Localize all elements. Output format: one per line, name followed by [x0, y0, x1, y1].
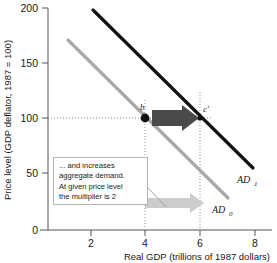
multiplier-callout: ... and increases aggregate demand. At g…: [53, 157, 148, 205]
y-tick-label-100: 100: [20, 112, 38, 124]
y-tick-label-0: 0: [32, 224, 38, 236]
callout-line-1: ... and increases: [59, 161, 143, 171]
x-axis-title: Real GDP (trillions of 1987 dollars): [124, 251, 270, 262]
curve-label-ad0: AD: [211, 204, 226, 215]
y-tick-label-150: 150: [20, 57, 38, 69]
curve-label-ad1-group: AD 1: [236, 174, 258, 188]
x-tick-label-8: 8: [252, 237, 258, 249]
point-c-prime: [197, 115, 202, 120]
point-b-label: b: [140, 102, 145, 112]
callout-line-4: the multiplier is 2: [59, 192, 143, 202]
curve-label-ad1: AD: [236, 174, 251, 185]
point-b: [141, 114, 150, 123]
x-tick-label-6: 6: [197, 237, 203, 249]
x-tick-label-4: 4: [142, 237, 148, 249]
multiplier-arrow-light: [145, 193, 204, 213]
point-c-prime-label: c′: [203, 104, 210, 114]
callout-line-3: At given price level: [59, 182, 143, 192]
y-tick-label-50: 50: [26, 167, 38, 179]
ad-shift-figure: 200 150 100 50 0 2 4 6 8 Real GDP (trill…: [0, 0, 277, 263]
y-axis-title: Price level (GDP deflator, 1987 = 100): [2, 40, 13, 200]
x-tick-label-2: 2: [88, 237, 94, 249]
curve-label-ad1-subscript: 1: [254, 180, 258, 188]
callout-line-2: aggregate demand.: [59, 171, 143, 181]
y-tick-label-200: 200: [20, 2, 38, 14]
chart-canvas: 200 150 100 50 0 2 4 6 8 Real GDP (trill…: [0, 0, 277, 263]
curve-label-ad0-subscript: 0: [229, 210, 233, 218]
curve-label-ad0-group: AD 0: [211, 204, 233, 218]
